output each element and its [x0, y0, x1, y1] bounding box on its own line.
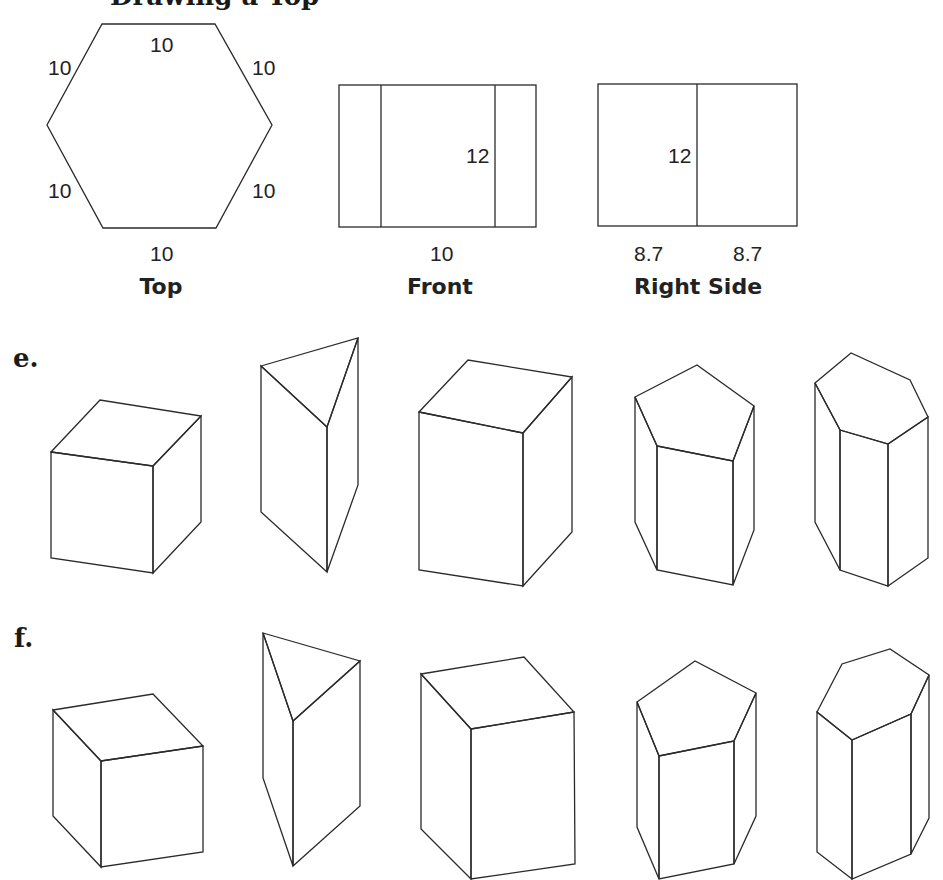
- triangular-prism-right-face: [293, 661, 360, 866]
- hexagonal-prism-top-face: [817, 649, 929, 740]
- front-view-outline: [339, 85, 536, 227]
- rect-prism-front-face: [419, 412, 523, 586]
- pentagonal-prism-top-face: [635, 365, 754, 461]
- cube-left-face: [53, 710, 101, 867]
- cube-right-face: [153, 416, 201, 573]
- cube-top-face: [53, 694, 203, 761]
- triangular-prism-top-face: [261, 338, 358, 427]
- option-e-hexagonal-prism: [815, 353, 928, 586]
- front-view: 12 10 Front: [339, 85, 536, 299]
- rect-prism-top-face: [419, 360, 572, 433]
- cut-off-title: Drawing a Top: [110, 0, 319, 11]
- top-edge-label-lower-left: 10: [48, 179, 71, 202]
- right-side-view: 12 8.7 8.7 Right Side: [598, 84, 797, 299]
- top-view-label: Top: [140, 274, 183, 299]
- rect-prism-top-face: [421, 657, 574, 729]
- option-f-cube: [53, 694, 203, 867]
- cube-top-face: [51, 400, 201, 466]
- triangular-prism-left-face: [261, 366, 327, 572]
- pentagonal-prism-top-face: [637, 661, 756, 756]
- pentagonal-prism-left-face: [635, 397, 657, 570]
- top-edge-label-upper-left: 10: [48, 56, 71, 79]
- orthographic-views-figure: Drawing a Top 10 10 10 10 10 10 Top 12 1…: [0, 0, 943, 880]
- cube-front-face: [51, 452, 153, 573]
- pentagonal-prism-front-face: [659, 741, 734, 879]
- hexagonal-prism-front-face: [852, 714, 911, 879]
- hexagonal-prism-right-face: [911, 675, 929, 854]
- option-f-triangular-prism: [263, 633, 360, 866]
- top-edge-label-lower-right: 10: [252, 179, 275, 202]
- option-f[interactable]: f.: [14, 623, 929, 879]
- pentagonal-prism-right-face: [734, 693, 756, 864]
- option-e-rectangular-prism: [419, 360, 572, 586]
- option-f-label: f.: [14, 623, 33, 653]
- option-f-pentagonal-prism: [637, 661, 756, 879]
- right-side-width-label-left: 8.7: [634, 242, 663, 265]
- hexagonal-prism-left-face: [815, 383, 840, 570]
- right-side-width-label-right: 8.7: [733, 242, 762, 265]
- triangular-prism-right-face: [327, 338, 358, 572]
- right-side-view-label: Right Side: [634, 274, 762, 299]
- front-height-label: 12: [466, 144, 489, 167]
- cube-front-face: [101, 746, 203, 867]
- hexagonal-prism-top-face: [815, 353, 928, 444]
- hexagonal-prism-front-face: [840, 430, 888, 586]
- pentagonal-prism-left-face: [637, 702, 659, 879]
- option-f-hexagonal-prism: [817, 649, 929, 879]
- hexagonal-prism-right-face: [888, 417, 928, 586]
- rect-prism-left-face: [421, 674, 471, 879]
- rect-prism-front-face: [471, 712, 575, 879]
- top-edge-label-upper-right: 10: [252, 56, 275, 79]
- option-e-triangular-prism: [261, 338, 358, 572]
- right-side-height-label: 12: [668, 144, 691, 167]
- option-e-pentagonal-prism: [635, 365, 754, 585]
- pentagonal-prism-right-face: [733, 406, 754, 585]
- top-edge-label-bottom: 10: [150, 242, 173, 265]
- triangular-prism-left-face: [263, 633, 293, 866]
- option-e-cube: [51, 400, 201, 573]
- front-width-label: 10: [430, 242, 453, 265]
- hexagonal-prism-left-face: [817, 712, 852, 879]
- top-view: 10 10 10 10 10 10 Top: [47, 24, 275, 299]
- title-fragment: Drawing a Top: [110, 0, 319, 11]
- option-e[interactable]: e.: [13, 338, 928, 586]
- pentagonal-prism-front-face: [657, 446, 733, 585]
- rect-prism-right-face: [523, 377, 572, 586]
- front-view-label: Front: [407, 274, 473, 299]
- top-edge-label-top: 10: [150, 33, 173, 56]
- option-f-rectangular-prism: [421, 657, 575, 879]
- option-e-label: e.: [13, 343, 39, 373]
